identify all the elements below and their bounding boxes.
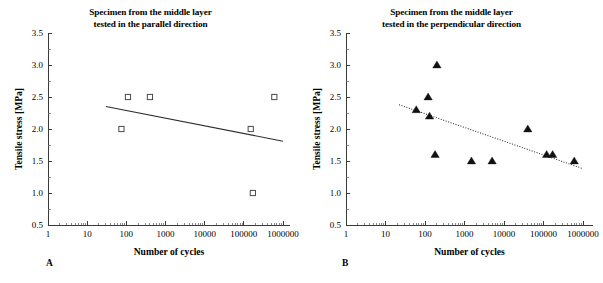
- y-tick-label: 3.5: [330, 28, 342, 38]
- data-point-square: [147, 94, 152, 99]
- x-tick-label: 10000: [493, 229, 516, 239]
- data-point-triangle: [548, 151, 556, 158]
- data-point-triangle: [424, 93, 432, 100]
- y-tick-label: 0.5: [32, 220, 44, 230]
- data-point-triangle: [570, 157, 578, 164]
- y-axis-title: Tensile stress [MPa]: [13, 88, 24, 170]
- x-tick-label: 10: [83, 229, 93, 239]
- y-tick-label: 2.5: [32, 92, 44, 102]
- y-tick-label: 2.0: [32, 124, 44, 134]
- x-tick-label: 100: [418, 229, 432, 239]
- data-point-triangle: [488, 157, 496, 164]
- x-tick-label: 1: [46, 229, 51, 239]
- x-tick-label: 10: [381, 229, 391, 239]
- trendline-a: [106, 107, 283, 142]
- data-point-square: [248, 126, 253, 131]
- x-tick-label: 1000000: [267, 229, 299, 239]
- data-point-triangle: [431, 151, 439, 158]
- x-tick-label: 10000: [193, 229, 216, 239]
- data-point-square: [119, 126, 124, 131]
- x-tick-label: 1000: [456, 229, 475, 239]
- data-point-triangle: [433, 61, 441, 68]
- y-tick-label: 2.0: [330, 124, 342, 134]
- data-point-triangle: [524, 125, 532, 132]
- panel-a-label: A: [46, 258, 53, 268]
- chart-panel-b: Specimen from the middle layer tested in…: [301, 0, 602, 283]
- y-axis-title: Tensile stress [MPa]: [311, 88, 322, 170]
- x-tick-label: 100000: [230, 229, 258, 239]
- x-tick-label: 1000: [157, 229, 176, 239]
- data-point-square: [125, 94, 130, 99]
- panel-b-plot: 0.51.01.52.02.53.03.51101001000100001000…: [301, 0, 603, 283]
- x-tick-label: 100000: [530, 229, 558, 239]
- x-tick-label: 1: [344, 229, 349, 239]
- y-tick-label: 1.5: [32, 156, 44, 166]
- data-point-triangle: [412, 106, 420, 113]
- data-point-triangle: [467, 157, 475, 164]
- y-tick-label: 1.0: [330, 188, 342, 198]
- y-tick-label: 1.0: [32, 188, 44, 198]
- axis-spines: [346, 33, 593, 225]
- y-tick-label: 3.0: [330, 60, 342, 70]
- x-axis-title: Number of cycles: [134, 246, 205, 257]
- figure-container: Specimen from the middle layer tested in…: [0, 0, 603, 283]
- chart-panel-a: Specimen from the middle layer tested in…: [0, 0, 301, 283]
- y-tick-label: 3.0: [32, 60, 44, 70]
- y-tick-label: 3.5: [32, 28, 44, 38]
- data-point-triangle: [425, 112, 433, 119]
- x-tick-label: 1000000: [567, 229, 599, 239]
- x-tick-label: 100: [120, 229, 134, 239]
- panel-a-plot: 0.51.01.52.02.53.03.51101001000100001000…: [0, 0, 301, 283]
- x-axis-title: Number of cycles: [434, 246, 505, 257]
- data-point-square: [250, 190, 255, 195]
- y-tick-label: 2.5: [330, 92, 342, 102]
- panel-b-label: B: [342, 258, 348, 268]
- data-point-square: [272, 94, 277, 99]
- y-tick-label: 0.5: [330, 220, 342, 230]
- y-tick-label: 1.5: [330, 156, 342, 166]
